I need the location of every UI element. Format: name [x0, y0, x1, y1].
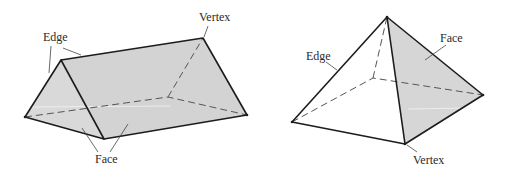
prism-vertex-dot	[24, 116, 27, 119]
prism-vertex-dot	[246, 114, 249, 117]
geometry-diagram: Edge Vertex Face Edge Face Vertex	[0, 0, 511, 180]
prism-edge-leader-1	[49, 46, 51, 73]
pyramid-edge-label: Edge	[306, 49, 331, 63]
pyramid-vertex-dot	[291, 121, 294, 124]
prism-vertex-leader	[204, 26, 208, 37]
diagram-canvas: Edge Vertex Face Edge Face Vertex	[0, 0, 511, 180]
pyramid-vertex-dot	[482, 94, 485, 97]
pyramid-edge-leader	[326, 62, 337, 70]
pyramid-vertex-leader	[407, 145, 417, 152]
prism-face-label: Face	[95, 152, 118, 166]
pyramid-face-label: Face	[440, 31, 463, 45]
prism-edge-leader-2	[63, 48, 81, 55]
pyramid-apex-dot	[386, 16, 389, 19]
prism-vertex-label: Vertex	[199, 10, 230, 24]
prism-edge-label: Edge	[43, 30, 68, 44]
square-pyramid: Edge Face Vertex	[291, 16, 485, 167]
pyramid-vertex-dot	[404, 143, 407, 146]
pyramid-vertex-label: Vertex	[413, 153, 444, 167]
triangular-prism: Edge Vertex Face	[24, 10, 249, 166]
